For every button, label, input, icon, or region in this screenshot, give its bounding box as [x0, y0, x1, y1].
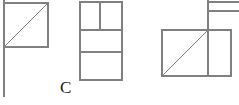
left-view-diagonal [4, 3, 48, 47]
middle-view-outer-rect [80, 2, 122, 80]
drawing-canvas: C [0, 0, 239, 105]
right-view-outer-rect [162, 30, 231, 76]
middle-view-group [80, 2, 122, 80]
figure-label-c: C [60, 79, 71, 96]
technical-line-drawing [0, 0, 239, 105]
right-view-diagonal [162, 30, 208, 76]
left-view-group [4, 0, 48, 97]
right-view-group [162, 0, 239, 76]
